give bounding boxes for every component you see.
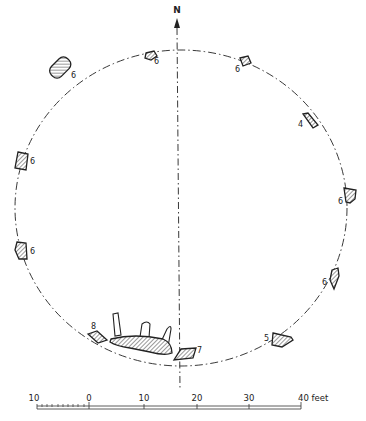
stone-label: 5 <box>264 334 269 343</box>
stone-label: 6 <box>235 65 240 74</box>
stone-label: 6 <box>322 278 327 287</box>
stone-label: 7 <box>197 346 202 355</box>
stone-top-left: 6 <box>145 51 159 66</box>
stone-top-right: 6 <box>235 56 251 74</box>
stone-left-upper: 6 <box>15 152 35 170</box>
stone-right-lower: 6 <box>322 268 339 289</box>
recumbent-stone <box>110 336 172 354</box>
scale-tick-label: 10 <box>29 393 40 403</box>
scale-tick-label: 10 <box>139 393 150 403</box>
stone-label: 6 <box>71 71 76 80</box>
stone-label: 4 <box>298 120 303 129</box>
stone-bottom-left: 8 <box>88 322 107 343</box>
scale-tick-label: 20 <box>192 393 203 403</box>
flanker-west <box>113 313 121 336</box>
stone-left-lower: 6 <box>15 242 35 259</box>
scale-tick-label: 30 <box>244 393 255 403</box>
stone-label: 6 <box>30 157 35 166</box>
stone-label: 6 <box>154 57 159 66</box>
scale-tick-label: 0 <box>86 393 91 403</box>
scale-bar: 10 0 10 20 30 40 feet <box>29 393 329 409</box>
stone-circle-plan: N 6 6 6 6 6 4 6 6 5 <box>0 0 366 421</box>
north-arrow: N <box>173 5 181 28</box>
circle-outline <box>15 50 347 366</box>
recumbent-stone-group <box>110 313 172 354</box>
north-label: N <box>173 5 181 15</box>
north-arrow-icon <box>174 18 180 28</box>
meridian-line <box>177 28 180 390</box>
stone-bottom-center: 7 <box>174 346 202 360</box>
stone-bottom-right: 5 <box>264 333 293 347</box>
scale-end-label: 40 feet <box>298 393 329 403</box>
stone-label: 6 <box>338 197 343 206</box>
stone-upper-left: 6 <box>47 54 76 80</box>
stone-label: 8 <box>91 322 96 331</box>
stone-label: 6 <box>30 247 35 256</box>
